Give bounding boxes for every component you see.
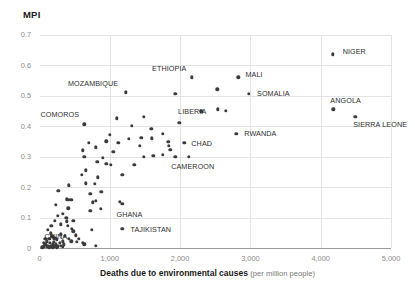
gridline-horizontal bbox=[40, 157, 392, 158]
point-label: COMOROS bbox=[40, 110, 79, 119]
y-tick-label: 0.7 bbox=[5, 30, 31, 39]
point-label: GHANA bbox=[116, 210, 142, 219]
data-point bbox=[216, 88, 219, 91]
data-point bbox=[101, 156, 104, 159]
x-tick-label: 3,000 bbox=[230, 254, 270, 263]
data-point bbox=[138, 144, 141, 147]
data-point bbox=[150, 136, 153, 139]
x-tick-label: 5,000 bbox=[371, 254, 411, 263]
point-label: MOZAMBIQUE bbox=[68, 79, 118, 88]
data-point-liberia bbox=[216, 108, 219, 111]
data-point bbox=[169, 148, 172, 151]
x-tick-label: 0 bbox=[20, 254, 60, 263]
data-point bbox=[66, 224, 69, 227]
data-point bbox=[77, 237, 80, 240]
y-tick-label: 0.4 bbox=[5, 122, 31, 131]
data-point bbox=[105, 162, 108, 165]
x-tick-label: 4,000 bbox=[301, 254, 341, 263]
data-point-ethiopia bbox=[190, 75, 193, 78]
data-point-angola bbox=[332, 108, 335, 111]
data-point bbox=[99, 207, 102, 210]
data-point bbox=[80, 173, 83, 176]
data-point bbox=[59, 223, 62, 226]
data-point bbox=[67, 207, 70, 210]
data-point bbox=[75, 240, 78, 243]
data-point bbox=[87, 141, 90, 144]
data-point-chad bbox=[183, 141, 186, 144]
data-point-rwanda bbox=[235, 132, 238, 135]
data-point bbox=[94, 244, 97, 247]
data-point bbox=[115, 117, 118, 120]
scatter-chart: MPI 00.10.20.30.40.50.60.7 01,0002,0003,… bbox=[0, 0, 415, 283]
point-label: CHINA bbox=[45, 232, 68, 241]
data-point-sierra-leone bbox=[353, 115, 356, 118]
data-point bbox=[166, 140, 169, 143]
point-label: CAMEROON bbox=[171, 162, 214, 171]
data-point bbox=[72, 219, 75, 222]
data-point bbox=[72, 230, 75, 233]
data-point bbox=[69, 240, 72, 243]
data-point bbox=[127, 137, 130, 140]
data-point bbox=[117, 141, 120, 144]
data-point bbox=[91, 201, 94, 204]
y-tick-label: 0.2 bbox=[5, 183, 31, 192]
gridline-horizontal bbox=[40, 65, 392, 66]
data-point bbox=[54, 203, 57, 206]
x-tick-label: 2,000 bbox=[160, 254, 200, 263]
gridline-horizontal bbox=[40, 187, 392, 188]
y-tick-label: 0.3 bbox=[5, 152, 31, 161]
data-point bbox=[112, 150, 115, 153]
data-point bbox=[94, 146, 97, 149]
y-tick-label: 0.1 bbox=[5, 213, 31, 222]
data-point bbox=[121, 173, 124, 176]
data-point bbox=[133, 163, 136, 166]
data-point bbox=[224, 109, 227, 112]
data-point-niger bbox=[331, 53, 334, 56]
gridline-vertical bbox=[250, 35, 251, 249]
data-point bbox=[130, 124, 133, 127]
gridline-horizontal bbox=[40, 218, 392, 219]
data-point bbox=[167, 144, 170, 147]
y-tick-label: 0.5 bbox=[5, 91, 31, 100]
data-point bbox=[61, 212, 64, 215]
data-point bbox=[95, 160, 98, 163]
data-point bbox=[62, 243, 65, 246]
data-point bbox=[65, 219, 68, 222]
data-point bbox=[161, 132, 164, 135]
x-axis-title-units: (per million people) bbox=[250, 269, 315, 278]
data-point bbox=[83, 243, 86, 246]
point-label: NIGER bbox=[343, 47, 366, 56]
y-tick-label: 0.6 bbox=[5, 61, 31, 70]
point-label: SIERRA LEONE bbox=[353, 120, 407, 129]
x-axis-title-main: Deaths due to environmental causes bbox=[100, 268, 248, 278]
data-point bbox=[100, 190, 103, 193]
data-point bbox=[88, 192, 91, 195]
data-point bbox=[94, 199, 97, 202]
data-point bbox=[57, 189, 60, 192]
point-label: MALI bbox=[245, 70, 262, 79]
data-point bbox=[142, 115, 145, 118]
gridline-vertical bbox=[391, 35, 392, 249]
data-point bbox=[93, 182, 96, 185]
point-label: CHAD bbox=[191, 139, 212, 148]
data-point bbox=[140, 136, 143, 139]
gridline-vertical bbox=[110, 35, 111, 249]
data-point bbox=[88, 209, 91, 212]
data-point bbox=[84, 169, 87, 172]
data-point bbox=[50, 224, 53, 227]
x-axis-title: Deaths due to environmental causes (per … bbox=[0, 268, 415, 278]
point-label: RWANDA bbox=[244, 129, 276, 138]
point-label: ETHIOPIA bbox=[152, 64, 186, 73]
data-point bbox=[84, 182, 87, 185]
data-point-mali bbox=[237, 75, 240, 78]
point-label: LIBERIA bbox=[178, 107, 206, 116]
point-label: TAJIKISTAN bbox=[130, 225, 171, 234]
gridline-horizontal bbox=[40, 126, 392, 127]
data-point bbox=[150, 127, 153, 130]
data-point bbox=[81, 149, 84, 152]
data-point bbox=[53, 219, 56, 222]
x-axis-line bbox=[40, 248, 392, 249]
y-axis-title: MPI bbox=[23, 9, 41, 20]
x-tick-label: 1,000 bbox=[90, 254, 130, 263]
gridline-vertical bbox=[321, 35, 322, 249]
